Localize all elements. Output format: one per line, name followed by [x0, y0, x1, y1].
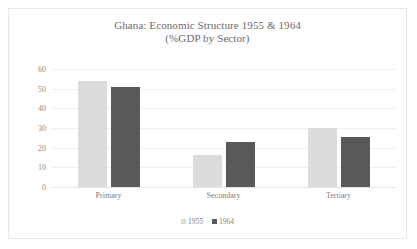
- legend-item-1964[interactable]: 1964: [212, 217, 234, 226]
- legend-swatch-icon: [212, 219, 217, 224]
- chart-container: Ghana: Economic Structure 1955 & 1964 (%…: [8, 8, 407, 239]
- bar-1955-tertiary[interactable]: [308, 128, 337, 187]
- chart-title-block: Ghana: Economic Structure 1955 & 1964 (%…: [9, 19, 406, 46]
- bar-1964-primary[interactable]: [111, 87, 140, 187]
- x-axis-tick-label: Primary: [51, 191, 166, 200]
- plot-area: 0102030405060: [51, 69, 396, 187]
- legend-label: 1964: [219, 217, 234, 226]
- x-axis-labels: PrimarySecondaryTertiary: [51, 191, 396, 205]
- bars-layer: [51, 69, 396, 187]
- y-axis-tick-label: 60: [38, 65, 46, 74]
- bar-1955-secondary[interactable]: [193, 155, 222, 187]
- y-axis-tick-label: 40: [38, 104, 46, 113]
- chart-legend: 19551964: [9, 217, 406, 226]
- bar-1964-tertiary[interactable]: [341, 137, 370, 187]
- x-axis-tick-label: Tertiary: [281, 191, 396, 200]
- y-axis-tick-label: 0: [42, 183, 46, 192]
- legend-swatch-icon: [181, 219, 186, 224]
- bar-1955-primary[interactable]: [78, 81, 107, 187]
- chart-subtitle: (%GDP by Sector): [9, 32, 406, 45]
- y-axis-tick-label: 50: [38, 84, 46, 93]
- bar-group: [281, 69, 396, 187]
- x-axis-tick-label: Secondary: [166, 191, 281, 200]
- bar-1964-secondary[interactable]: [226, 142, 255, 187]
- y-axis-tick-label: 20: [38, 143, 46, 152]
- y-axis-tick-label: 30: [38, 124, 46, 133]
- bar-group: [51, 69, 166, 187]
- legend-label: 1955: [188, 217, 203, 226]
- legend-item-1955[interactable]: 1955: [181, 217, 203, 226]
- y-axis-tick-label: 10: [38, 163, 46, 172]
- gridline: [51, 187, 396, 188]
- bar-group: [166, 69, 281, 187]
- chart-title: Ghana: Economic Structure 1955 & 1964: [9, 19, 406, 32]
